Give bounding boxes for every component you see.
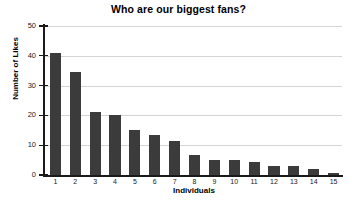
bar [50, 53, 61, 175]
bar [209, 160, 220, 175]
x-tick-label: 12 [264, 178, 284, 185]
x-tick-label: 3 [85, 178, 105, 185]
chart-title: Who are our biggest fans? [0, 3, 357, 15]
gridline [44, 26, 342, 27]
x-tick-label: 10 [224, 178, 244, 185]
bar [189, 155, 200, 175]
bar [169, 141, 180, 175]
bar [268, 166, 279, 175]
x-tick-label: 1 [45, 178, 65, 185]
bar-chart: Who are our biggest fans? Number of Like… [0, 0, 357, 206]
x-axis-line [43, 175, 343, 177]
bar [149, 135, 160, 175]
bar [109, 115, 120, 175]
x-tick-label: 11 [244, 178, 264, 185]
bar [249, 162, 260, 175]
x-tick-label: 5 [125, 178, 145, 185]
x-tick-label: 8 [185, 178, 205, 185]
x-tick-label: 6 [145, 178, 165, 185]
x-tick-label: 13 [284, 178, 304, 185]
x-tick-label: 7 [165, 178, 185, 185]
x-tick-label: 4 [105, 178, 125, 185]
x-tick-label: 14 [304, 178, 324, 185]
y-tick-label: 0 [14, 170, 36, 179]
bar [229, 160, 240, 175]
bar [129, 130, 140, 175]
y-axis-line [43, 24, 45, 177]
y-tick-label: 20 [14, 110, 36, 119]
y-tick-label: 40 [14, 51, 36, 60]
gridline [44, 86, 342, 87]
x-tick-label: 9 [204, 178, 224, 185]
bar [90, 112, 101, 175]
x-axis-title: Individuals [44, 186, 344, 195]
y-tick-label: 50 [14, 21, 36, 30]
y-tick-label: 10 [14, 140, 36, 149]
bar [288, 166, 299, 175]
x-tick-label: 2 [65, 178, 85, 185]
y-tick-label: 30 [14, 81, 36, 90]
gridline [44, 56, 342, 57]
plot-area [44, 26, 342, 175]
x-tick-label: 15 [324, 178, 344, 185]
bar [70, 72, 81, 175]
